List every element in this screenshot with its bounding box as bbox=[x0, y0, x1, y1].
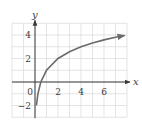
x-tick-label: 2 bbox=[55, 87, 61, 97]
y-tick-label: 4 bbox=[25, 30, 31, 40]
y-tick-label: −2 bbox=[18, 101, 31, 111]
x-tick-label: 4 bbox=[78, 87, 84, 97]
y-axis-label: y bbox=[31, 9, 38, 20]
x-axis-label: x bbox=[133, 76, 139, 87]
origin-label: 0 bbox=[27, 87, 33, 97]
y-tick-label: 2 bbox=[25, 54, 31, 64]
x-tick-label: 6 bbox=[101, 87, 107, 97]
log-function-chart: 0246−224 x y bbox=[0, 0, 142, 127]
